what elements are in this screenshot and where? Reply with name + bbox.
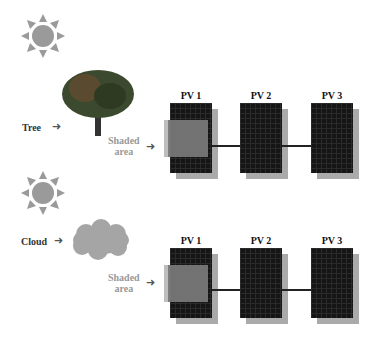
pv-panel-2 xyxy=(240,248,282,318)
pv-panel-2 xyxy=(240,103,282,173)
pv-label: PV 2 xyxy=(240,90,282,101)
pv-label: PV 1 xyxy=(170,90,212,101)
shaded-area-label: Shaded area xyxy=(108,135,140,157)
wire xyxy=(212,145,240,147)
shaded-area xyxy=(164,120,208,157)
arrow-icon: ➜ xyxy=(146,276,155,289)
pv-panel-3 xyxy=(311,103,353,173)
sun-icon xyxy=(20,13,66,59)
wire xyxy=(282,289,311,291)
arrow-icon: ➜ xyxy=(52,120,61,133)
pv-label: PV 2 xyxy=(240,235,282,246)
cloud-icon xyxy=(68,218,134,262)
cloud-label: Cloud xyxy=(21,236,47,247)
pv-label: PV 1 xyxy=(170,235,212,246)
arrow-icon: ➜ xyxy=(54,234,63,247)
pv-label: PV 3 xyxy=(311,235,353,246)
arrow-icon: ➜ xyxy=(146,140,155,153)
wire xyxy=(212,289,240,291)
sun-icon xyxy=(20,170,66,216)
pv-label: PV 3 xyxy=(311,90,353,101)
pv-panel-3 xyxy=(311,248,353,318)
wire xyxy=(282,145,311,147)
tree-label: Tree xyxy=(22,122,41,133)
shaded-area xyxy=(164,265,208,302)
shaded-area-label: Shaded area xyxy=(108,272,140,294)
tree-icon xyxy=(60,66,138,138)
